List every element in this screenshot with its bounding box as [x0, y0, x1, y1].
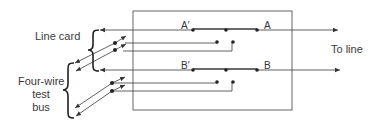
- diag-wire-3: [112, 77, 125, 83]
- contact-label-b: B: [264, 61, 271, 71]
- contact-label-b-prime: B′: [181, 61, 190, 71]
- test-bus-label-line2: test: [18, 88, 64, 100]
- junction-dot: [113, 41, 117, 45]
- contact-label-a-prime: A′: [181, 21, 190, 31]
- line-card-brace: [88, 30, 99, 71]
- contact-2: [215, 40, 219, 44]
- contact-6: [231, 80, 235, 84]
- contact-5: [215, 80, 219, 84]
- contact-b: [255, 68, 259, 72]
- junction-dot: [113, 48, 117, 52]
- contact-label-a: A: [264, 21, 271, 31]
- test-bus-label-line1: Four-wire: [18, 75, 64, 87]
- contact-3: [231, 40, 235, 44]
- contact-b-mid: [224, 68, 228, 72]
- contact-a-prime: [191, 28, 195, 32]
- test-bus-label-line3: bus: [18, 101, 64, 113]
- diag-wire-4: [112, 85, 125, 91]
- junction-dot: [110, 81, 114, 85]
- test-bus-label: Four-wire test bus: [18, 75, 64, 113]
- contact-a: [255, 28, 259, 32]
- line-card-label: Line card: [35, 30, 80, 42]
- test-bus-brace: [63, 63, 74, 118]
- contact-b-prime: [191, 68, 195, 72]
- contact-a-mid: [224, 28, 228, 32]
- junction-dot: [110, 89, 114, 93]
- to-line-label: To line: [331, 43, 363, 55]
